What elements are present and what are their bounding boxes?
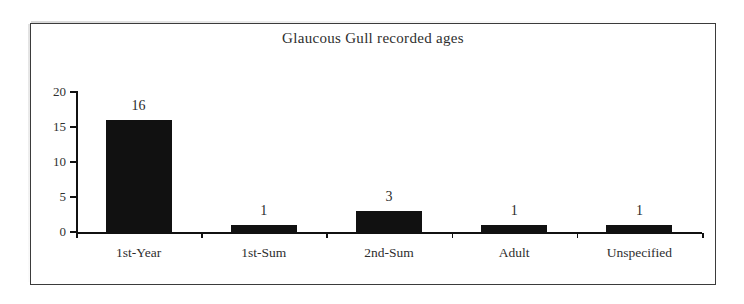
y-axis-tick xyxy=(70,161,76,163)
bar-value-label: 3 xyxy=(359,189,419,205)
x-axis-category-label: Unspecified xyxy=(577,245,702,261)
x-axis-category-label: 1st-Year xyxy=(76,245,201,261)
x-axis-tick xyxy=(577,233,579,238)
bar xyxy=(606,225,672,232)
bar xyxy=(356,211,422,232)
y-axis-tick xyxy=(70,91,76,93)
y-axis-tick-label: 5 xyxy=(38,189,66,205)
x-axis-category-label: 1st-Sum xyxy=(201,245,326,261)
x-axis-category-label: 2nd-Sum xyxy=(326,245,451,261)
chart-title: Glaucous Gull recorded ages xyxy=(30,30,716,47)
y-axis-tick-label: 10 xyxy=(38,154,66,170)
x-axis-line xyxy=(76,232,702,234)
x-axis-tick xyxy=(201,233,203,238)
y-axis-tick xyxy=(70,196,76,198)
y-axis-tick-label: 0 xyxy=(38,224,66,240)
x-axis-tick xyxy=(76,233,78,238)
x-axis-category-label: Adult xyxy=(452,245,577,261)
bar xyxy=(106,120,172,232)
bar-value-label: 1 xyxy=(234,203,294,219)
y-axis-tick xyxy=(70,126,76,128)
y-axis-tick-label: 20 xyxy=(38,84,66,100)
x-axis-tick xyxy=(452,233,454,238)
y-axis-line xyxy=(76,91,78,233)
chart-figure: Glaucous Gull recorded ages 05101520 161… xyxy=(0,0,744,304)
x-axis-tick xyxy=(702,233,704,238)
x-axis-tick xyxy=(326,233,328,238)
bar xyxy=(481,225,547,232)
bar-value-label: 1 xyxy=(484,203,544,219)
bar-value-label: 16 xyxy=(109,98,169,114)
y-axis-tick-label: 15 xyxy=(38,119,66,135)
bar xyxy=(231,225,297,232)
bar-value-label: 1 xyxy=(609,203,669,219)
